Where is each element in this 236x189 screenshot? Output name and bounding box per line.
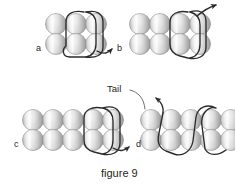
bead [63, 110, 84, 131]
figure-caption: figure 9 [101, 167, 138, 179]
tail-leader-line [130, 90, 145, 109]
panel-b: b [117, 5, 216, 59]
bead [66, 14, 87, 35]
bead [150, 34, 171, 55]
tail-label: Tail [107, 83, 121, 94]
tail-annotation: Tail [107, 83, 145, 109]
bead [201, 110, 222, 131]
panel-d-bead-grid [141, 110, 236, 151]
panel-c-label: c [14, 139, 19, 149]
bead [221, 110, 236, 131]
beading-diagram-svg: a [0, 0, 235, 189]
bead [141, 110, 162, 131]
bead [150, 14, 171, 35]
panel-d-label: d [136, 139, 141, 149]
bead [170, 14, 191, 35]
panel-a-bead-grid [46, 14, 107, 55]
panel-c-bead-grid [23, 110, 124, 151]
panel-b-label: b [117, 43, 122, 53]
bead [43, 130, 64, 151]
panel-a: a [36, 11, 112, 57]
bead [181, 110, 202, 131]
bead [130, 14, 151, 35]
panel-d: d [136, 98, 235, 155]
bead [66, 34, 87, 55]
figure-9-container: a [0, 0, 235, 189]
bead [46, 14, 67, 35]
bead [221, 130, 236, 151]
panel-a-label: a [36, 43, 41, 53]
bead [161, 130, 182, 151]
bead [23, 110, 44, 131]
bead [23, 130, 44, 151]
panel-c: c [14, 107, 129, 155]
bead [43, 110, 64, 131]
bead [63, 130, 84, 151]
bead [130, 34, 151, 55]
